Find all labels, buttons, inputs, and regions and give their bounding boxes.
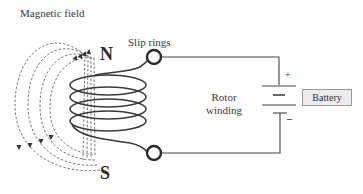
south-pole-label: S <box>100 164 110 182</box>
field-line-core-2 <box>87 56 88 158</box>
north-pole-label: N <box>100 45 113 63</box>
battery-symbol <box>262 86 296 113</box>
slip-ring-bottom <box>147 146 161 160</box>
slip-rings-label: Slip rings <box>128 37 170 48</box>
magnetic-field-lines <box>15 43 100 171</box>
arrow-down-icon <box>28 143 33 148</box>
field-line-core-1 <box>83 55 85 160</box>
battery-label: Battery <box>312 92 341 103</box>
arrow-up-icon <box>86 49 92 55</box>
arrow-down-icon <box>17 145 22 150</box>
wire-bottom <box>161 113 280 153</box>
slip-ring-top <box>147 50 161 64</box>
magnetic-field-label: Magnetic field <box>20 8 84 19</box>
coil-turn-4 <box>70 111 146 131</box>
rotor-winding-label-line1: Rotor <box>206 91 242 104</box>
rotor-winding-label-line2: winding <box>206 104 242 117</box>
coil-turn-2 <box>70 87 146 107</box>
wire-top <box>161 57 279 85</box>
slip-rings <box>147 50 161 160</box>
battery-label-box: Battery <box>302 89 352 106</box>
arrow-up-icon <box>72 54 79 61</box>
positive-terminal-label: + <box>285 70 291 80</box>
field-line-2 <box>28 49 97 166</box>
rotor-winding-label: Rotor winding <box>206 91 242 117</box>
coil-turn-3 <box>70 99 146 119</box>
coil-turn-1 <box>70 75 146 95</box>
rotor-coil <box>70 58 150 153</box>
negative-terminal-label: − <box>286 114 292 125</box>
